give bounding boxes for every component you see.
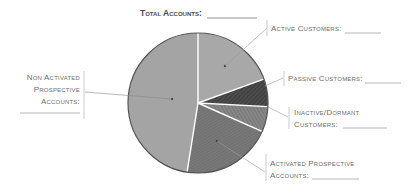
nonactivated-label-line2: Prospective: [34, 85, 80, 94]
pie-slice-non-activated-prospective-accounts: [128, 33, 198, 172]
activated-label-line2: Accounts:: [270, 171, 309, 180]
nonactivated-label-line3: Accounts:: [41, 97, 80, 106]
label-inactive-customers: Inactive/Dormant Customers:: [268, 107, 387, 129]
activated-label-line1: Activated Prospective: [270, 159, 355, 168]
inactive-label-line1: Inactive/Dormant: [294, 108, 360, 117]
active-customers-label: Active Customers:: [271, 24, 342, 33]
chart-title: Total Accounts:: [140, 8, 202, 18]
passive-customers-label: Passive Customers:: [288, 74, 363, 83]
inactive-label-line2: Customers:: [294, 120, 338, 129]
nonactivated-label-line1: Non Activated: [27, 73, 81, 82]
pie-chart: Total Accounts: Active Customers: Passiv…: [0, 0, 420, 189]
pie-slices: [128, 33, 268, 173]
label-passive-customers: Passive Customers:: [265, 71, 401, 86]
